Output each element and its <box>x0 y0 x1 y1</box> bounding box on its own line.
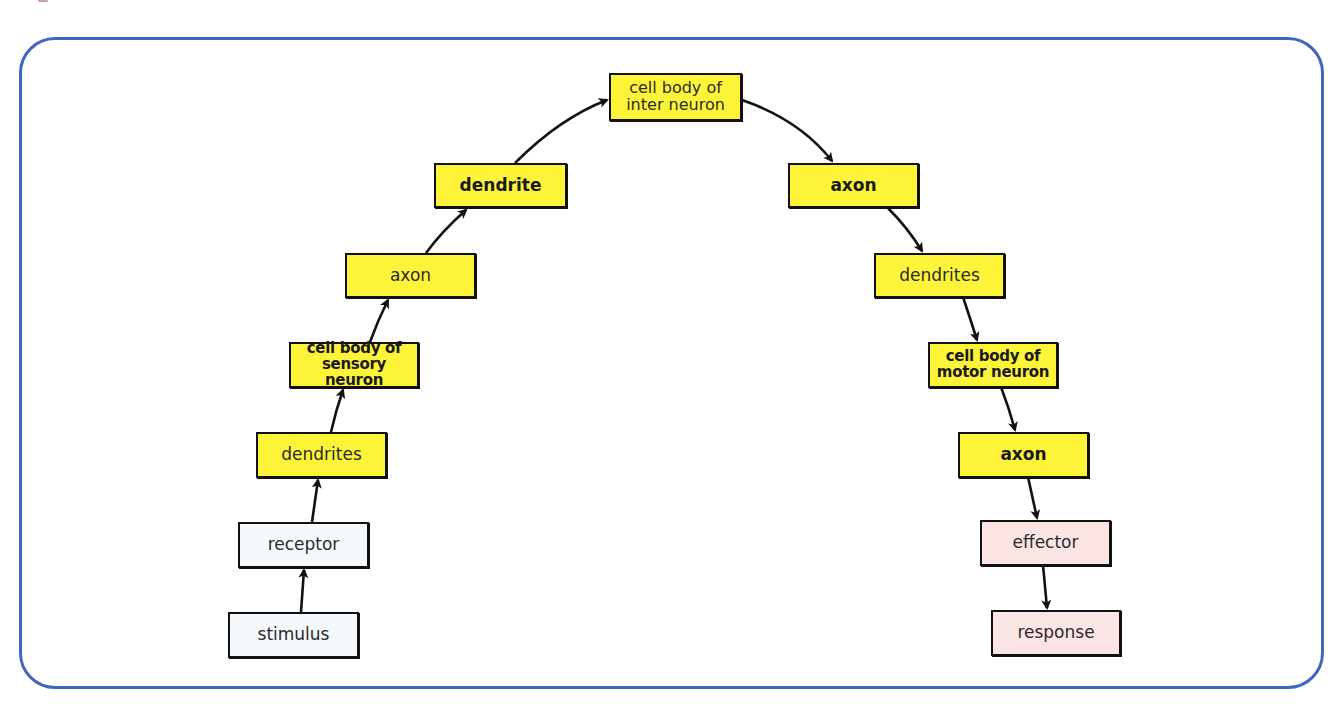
node-label: receptor <box>268 536 340 554</box>
node-label: cell body of sensory neuron <box>291 341 417 388</box>
arrow-dendrites-sensory <box>331 390 343 432</box>
node-cell-body-inter-neuron: cell body of inter neuron <box>609 73 742 121</box>
node-axon-inter: axon <box>788 163 919 208</box>
arrow-axon-effector <box>1028 477 1037 518</box>
node-label: dendrites <box>281 446 362 464</box>
node-dendrite-inter: dendrite <box>434 163 567 208</box>
node-label: dendrite <box>460 177 542 195</box>
node-stimulus: stimulus <box>228 612 359 658</box>
node-label: axon <box>830 177 876 195</box>
node-response: response <box>991 610 1121 656</box>
arrow-receptor-dendrites <box>312 480 318 522</box>
node-axon-motor: axon <box>958 432 1089 478</box>
node-dendrites-motor: dendrites <box>874 253 1005 298</box>
node-label: cell body of inter neuron <box>626 80 725 114</box>
node-label: stimulus <box>258 626 330 644</box>
arrow-stimulus-receptor <box>301 570 304 612</box>
node-axon-sensory: axon <box>345 253 476 298</box>
arrow-sensory-axon <box>370 300 388 342</box>
node-receptor: receptor <box>238 522 369 568</box>
arrow-motor-axon <box>1001 387 1015 430</box>
node-label: cell body of motor neuron <box>937 349 1049 381</box>
node-label: dendrites <box>899 267 980 285</box>
node-label: axon <box>390 267 431 285</box>
node-cell-body-motor-neuron: cell body of motor neuron <box>928 342 1058 388</box>
node-label: axon <box>1000 446 1046 464</box>
arrow-axon-dendrites <box>887 207 922 251</box>
arrow-axon-dendrite <box>426 210 466 253</box>
arrow-dendrite-inter <box>515 100 607 163</box>
node-label: response <box>1017 624 1094 642</box>
arrow-dendrites-motor <box>963 297 977 340</box>
node-label: effector <box>1012 534 1078 552</box>
arrow-effector-response <box>1043 565 1047 608</box>
node-dendrites-sensory: dendrites <box>256 432 387 478</box>
node-effector: effector <box>980 520 1111 566</box>
node-cell-body-sensory-neuron: cell body of sensory neuron <box>289 342 419 388</box>
arrow-inter-axon <box>742 100 832 161</box>
